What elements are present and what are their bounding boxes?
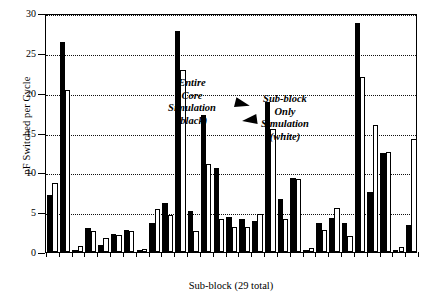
y-tick-mark — [38, 253, 45, 254]
bar-sub-block-only — [386, 152, 391, 252]
bar-sub-block-only — [52, 183, 57, 252]
annotation-entire-core-line-2: Core — [146, 90, 238, 103]
x-tick-mark — [72, 252, 73, 257]
bar-sub-block-only — [334, 208, 339, 252]
bar-sub-block-only — [168, 215, 173, 252]
x-tick-mark — [328, 252, 329, 257]
x-tick-mark — [277, 252, 278, 257]
x-tick-mark — [136, 252, 137, 257]
bar-sub-block-only — [91, 231, 96, 253]
x-tick-mark — [149, 252, 150, 257]
y-tick-label: 0 — [31, 248, 36, 258]
annotation-entire-core-line-3: Simulation — [146, 102, 238, 115]
x-tick-mark — [380, 252, 381, 257]
y-tick-mark — [38, 213, 45, 214]
y-tick-label: 25 — [26, 49, 36, 59]
y-axis-ticks: 051015202530 — [0, 0, 45, 307]
bar-sub-block-only — [296, 179, 301, 252]
x-tick-mark — [418, 252, 419, 257]
bar-sub-block-only — [283, 219, 288, 252]
y-tick-mark — [38, 94, 45, 95]
bar-sub-block-only — [193, 231, 198, 252]
bar-sub-block-only — [206, 164, 211, 252]
bar-sub-block-only — [65, 90, 70, 252]
x-tick-mark — [290, 252, 291, 257]
x-tick-mark — [251, 252, 252, 257]
x-tick-mark — [200, 252, 201, 257]
y-tick-mark — [38, 14, 45, 15]
x-tick-mark — [354, 252, 355, 257]
y-tick-label: 20 — [26, 89, 36, 99]
bar-sub-block-only — [399, 247, 404, 252]
x-tick-mark — [315, 252, 316, 257]
y-tick-mark — [38, 134, 45, 135]
x-tick-mark — [405, 252, 406, 257]
annotation-sub-block-line-4: (white) — [242, 131, 328, 144]
x-tick-mark — [174, 252, 175, 257]
bar-sub-block-only — [270, 129, 275, 252]
y-tick-label: 30 — [26, 9, 36, 19]
x-tick-mark — [341, 252, 342, 257]
x-tick-mark — [187, 252, 188, 257]
x-tick-mark — [59, 252, 60, 257]
bar-sub-block-only — [309, 248, 314, 252]
annotation-entire-core-line-1: Entire — [146, 77, 238, 90]
bar-sub-block-only — [78, 246, 83, 252]
annotation-entire-core-line-4: (black) — [146, 115, 238, 128]
x-axis-title: Sub-block (29 total) — [45, 280, 417, 291]
bar-series-container — [46, 15, 416, 252]
bar-sub-block-only — [373, 125, 378, 252]
bar-sub-block-only — [129, 231, 134, 252]
bar-sub-block-only — [360, 77, 365, 252]
plot-area: Entire Core Simulation (black) Sub-block… — [45, 14, 417, 253]
annotation-sub-block-line-1: Sub-block — [242, 93, 328, 106]
bar-sub-block-only — [411, 139, 416, 252]
x-tick-mark — [392, 252, 393, 257]
x-tick-mark — [123, 252, 124, 257]
bar-sub-block-only — [116, 235, 121, 252]
x-tick-mark — [213, 252, 214, 257]
bar-sub-block-only — [103, 238, 108, 252]
x-tick-mark — [303, 252, 304, 257]
bar-sub-block-only — [219, 219, 224, 252]
x-tick-mark — [84, 252, 85, 257]
y-tick-mark — [38, 173, 45, 174]
x-tick-mark — [97, 252, 98, 257]
annotation-arrow-white-icon — [241, 114, 257, 126]
x-tick-mark — [238, 252, 239, 257]
x-tick-mark — [367, 252, 368, 257]
bar-sub-block-only — [232, 227, 237, 252]
bar-sub-block-only — [142, 249, 147, 252]
bar-sub-block-only — [347, 236, 352, 252]
bar-sub-block-only — [245, 227, 250, 252]
bar-sub-block-only — [322, 230, 327, 252]
x-tick-mark — [46, 252, 47, 257]
x-tick-mark — [110, 252, 111, 257]
y-tick-label: 10 — [26, 168, 36, 178]
bar-sub-block-only — [155, 209, 160, 252]
annotation-entire-core: Entire Core Simulation (black) — [146, 77, 238, 127]
bar-sub-block-only — [257, 214, 262, 252]
x-tick-mark — [161, 252, 162, 257]
y-tick-mark — [38, 54, 45, 55]
x-tick-mark — [264, 252, 265, 257]
y-tick-label: 5 — [31, 208, 36, 218]
y-tick-label: 15 — [26, 129, 36, 139]
x-tick-mark — [226, 252, 227, 257]
chart-figure: pF Switched per Cycle 051015202530 Entir… — [0, 0, 430, 307]
